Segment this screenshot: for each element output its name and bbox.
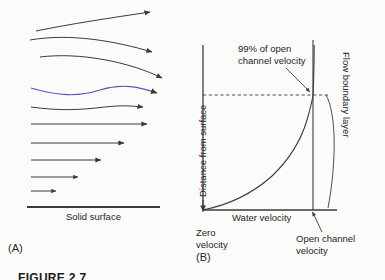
streamline-2 (30, 37, 152, 52)
figure-caption: FIGURE 2.7 (18, 271, 86, 280)
boundary-layer-brace (326, 95, 334, 208)
boundary-layer-label: Flow boundary layer (341, 52, 353, 138)
figure-container: Solid surface (A) Distance from surface … (0, 0, 385, 280)
panel-b-label: (B) (196, 252, 211, 264)
panel-a-label: (A) (8, 243, 23, 255)
annotation-99-percent-line1: 99% of open (238, 43, 291, 55)
streamline-5 (31, 106, 143, 110)
open-channel-label-line1: Open channel (296, 233, 355, 245)
solid-surface-label: Solid surface (66, 211, 121, 223)
annotation-99-percent-line2: channel velocity (238, 55, 306, 67)
x-axis-label: Water velocity (232, 212, 291, 224)
streamline-4 (31, 86, 157, 94)
velocity-profile-curve (203, 95, 313, 210)
panel-a-streamlines (27, 12, 162, 207)
open-channel-leader-arrow (313, 212, 323, 232)
zero-velocity-label-line2: velocity (196, 239, 228, 251)
annotation-leader-arrow (286, 68, 310, 92)
streamline-1 (36, 12, 150, 31)
panel-b-chart (200, 40, 337, 232)
streamline-3 (40, 56, 162, 78)
zero-velocity-label-line1: Zero (196, 227, 216, 239)
open-channel-label-line2: velocity (296, 245, 328, 257)
y-axis-label: Distance from surface (197, 105, 209, 197)
